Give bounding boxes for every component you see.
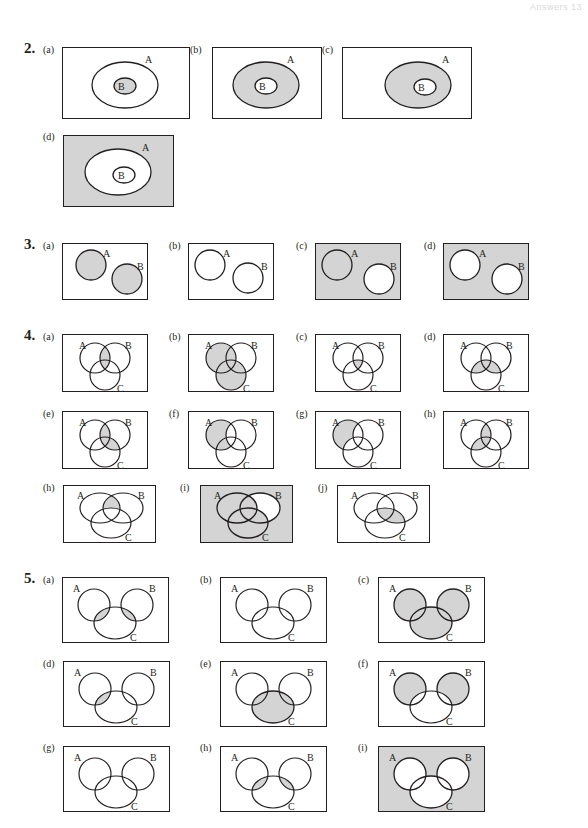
svg-text:C: C: [446, 632, 453, 643]
svg-text:B: B: [307, 583, 314, 594]
svg-text:B: B: [275, 490, 282, 501]
venn-diagram-4g: ABC: [315, 411, 401, 469]
svg-text:A: A: [442, 54, 450, 65]
svg-text:C: C: [288, 632, 295, 643]
set-label-b: B: [118, 81, 125, 92]
svg-text:A: A: [460, 340, 468, 351]
question-number-2: 2.: [24, 40, 35, 57]
venn-diagram-5f: ABC: [378, 661, 485, 727]
svg-text:A: A: [205, 340, 213, 351]
venn-diagram-4h-2: ABC: [63, 485, 156, 543]
svg-text:B: B: [506, 417, 513, 428]
svg-text:A: A: [332, 417, 340, 428]
svg-text:A: A: [231, 667, 239, 678]
svg-text:A: A: [73, 583, 81, 594]
question-number-4: 4.: [24, 327, 35, 344]
figure-label: (i): [358, 742, 367, 753]
venn-diagram-5a: ABC: [62, 577, 169, 643]
venn-diagram-4c: ABC: [315, 334, 401, 392]
svg-text:C: C: [498, 460, 505, 471]
svg-text:A: A: [142, 142, 150, 153]
svg-text:C: C: [130, 632, 137, 643]
svg-text:B: B: [259, 81, 266, 92]
figure-label: (b): [200, 574, 212, 585]
svg-text:B: B: [125, 340, 132, 351]
page-header: Answers 13: [530, 2, 582, 12]
venn-diagram-3c: A B: [315, 243, 401, 300]
figure-label: (a): [43, 331, 54, 342]
svg-text:B: B: [378, 417, 385, 428]
svg-text:B: B: [149, 583, 156, 594]
figure-label: (h): [424, 408, 436, 419]
venn-diagram-4b: ABC: [188, 334, 274, 392]
venn-diagram-4h: ABC: [443, 411, 529, 469]
venn-diagram-3d: A B: [443, 243, 529, 300]
figure-label: (a): [43, 574, 54, 585]
figure-label: (c): [322, 44, 333, 55]
figure-label: (c): [296, 331, 307, 342]
svg-text:C: C: [498, 383, 505, 394]
figure-label: (j): [318, 482, 327, 493]
svg-text:A: A: [77, 490, 85, 501]
venn-diagram-4j: ABC: [337, 485, 430, 543]
svg-text:C: C: [370, 460, 377, 471]
svg-text:B: B: [150, 752, 157, 763]
svg-text:A: A: [389, 583, 397, 594]
svg-text:A: A: [479, 248, 487, 259]
venn-diagram-5e: ABC: [220, 661, 327, 727]
figure-label: (b): [169, 331, 181, 342]
svg-text:A: A: [231, 583, 239, 594]
venn-diagram-4a: ABC: [62, 334, 148, 392]
svg-text:C: C: [243, 460, 250, 471]
figure-label: (d): [424, 240, 436, 251]
svg-text:C: C: [243, 383, 250, 394]
svg-text:A: A: [351, 490, 359, 501]
svg-text:C: C: [288, 716, 295, 727]
svg-text:B: B: [150, 667, 157, 678]
svg-text:B: B: [125, 417, 132, 428]
svg-text:C: C: [446, 801, 453, 812]
svg-text:A: A: [74, 667, 82, 678]
svg-text:A: A: [389, 752, 397, 763]
svg-text:A: A: [103, 248, 111, 259]
svg-text:A: A: [223, 248, 231, 259]
svg-text:B: B: [506, 340, 513, 351]
svg-text:B: B: [518, 261, 525, 272]
svg-text:B: B: [465, 667, 472, 678]
svg-text:B: B: [412, 490, 419, 501]
svg-text:B: B: [137, 261, 144, 272]
svg-text:A: A: [231, 752, 239, 763]
venn-diagram-4d: ABC: [443, 334, 529, 392]
svg-text:A: A: [460, 417, 468, 428]
figure-label: (f): [358, 658, 368, 669]
svg-text:C: C: [446, 716, 453, 727]
svg-text:A: A: [74, 752, 82, 763]
venn-diagram-5g: ABC: [63, 746, 170, 812]
venn-diagram-2a: B A: [62, 47, 190, 119]
venn-diagram-4f: ABC: [188, 411, 274, 469]
svg-text:B: B: [378, 340, 385, 351]
set-label-a: A: [145, 54, 153, 65]
figure-label: (h): [200, 742, 212, 753]
svg-text:B: B: [390, 261, 397, 272]
figure-label: (b): [169, 240, 181, 251]
figure-label: (i): [180, 482, 189, 493]
question-number-3: 3.: [24, 236, 35, 253]
svg-text:C: C: [288, 801, 295, 812]
svg-text:A: A: [79, 340, 87, 351]
figure-label: (b): [190, 44, 202, 55]
figure-label: (d): [424, 331, 436, 342]
figure-label: (d): [43, 131, 55, 142]
venn-diagram-5h: ABC: [220, 746, 327, 812]
svg-text:B: B: [261, 261, 268, 272]
svg-text:A: A: [214, 490, 222, 501]
venn-diagram-3a: A B: [62, 243, 148, 300]
figure-label: (f): [169, 408, 179, 419]
venn-diagram-4e: ABC: [62, 411, 148, 469]
venn-diagram-5d: ABC: [63, 661, 170, 727]
svg-text:C: C: [125, 532, 132, 543]
svg-text:A: A: [351, 248, 359, 259]
venn-diagram-2c: B A: [342, 47, 472, 119]
figure-label: (g): [296, 408, 308, 419]
venn-diagram-3b: A B: [188, 243, 274, 300]
